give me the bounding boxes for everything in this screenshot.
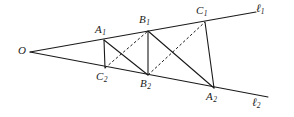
- vertex-label-o: O: [18, 45, 26, 56]
- vertex-label-o-text: O: [18, 44, 26, 56]
- point-label-c1-sub: 1: [204, 9, 208, 18]
- point-label-b1-sub: 1: [146, 18, 150, 27]
- point-label-a2-base: A: [206, 90, 213, 102]
- point-label-b2-base: B: [140, 77, 147, 89]
- segment-a1-c2: [104, 40, 105, 68]
- point-label-c2: C2: [96, 71, 107, 82]
- point-label-c2-base: C: [96, 70, 103, 82]
- geometry-figure: O A1 B1 C1 C2 B2 A2 ℓ1 ℓ2: [0, 0, 294, 117]
- line-label-ell-1: ℓ1: [256, 3, 265, 15]
- line-label-ell-1-sub: 1: [261, 7, 265, 16]
- point-label-c2-sub: 2: [104, 75, 108, 84]
- point-label-a1: A1: [95, 24, 105, 35]
- point-label-a2: A2: [206, 91, 216, 102]
- line-label-ell-2-sub: 2: [257, 101, 261, 110]
- point-label-a2-sub: 2: [213, 95, 217, 104]
- point-label-c1: C1: [196, 5, 207, 16]
- segment-c1-a2: [205, 22, 214, 88]
- point-label-b1: B1: [139, 14, 149, 25]
- point-label-b2-sub: 2: [147, 82, 151, 91]
- point-label-b2: B2: [140, 78, 150, 89]
- segment-b1-a2: [148, 31, 214, 88]
- point-label-a1-base: A: [95, 23, 102, 35]
- segment-c2-b1: [105, 31, 148, 68]
- point-label-a1-sub: 1: [102, 28, 106, 37]
- point-label-b1-base: B: [139, 13, 146, 25]
- point-label-c1-base: C: [196, 4, 203, 16]
- line-label-ell-2: ℓ2: [252, 97, 261, 109]
